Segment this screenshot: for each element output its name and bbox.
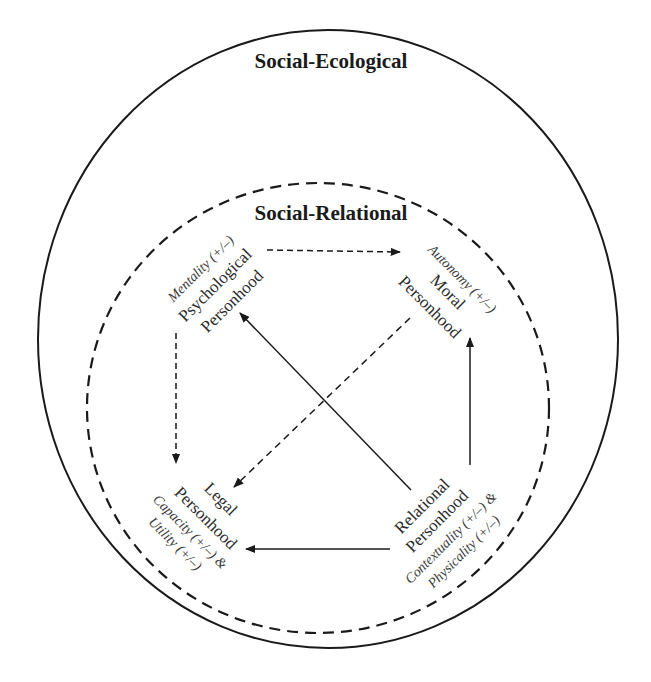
social-ecological-boundary xyxy=(38,30,618,648)
node-legal-personhood: Legal Personhood Capacity (+/–) & Utilit… xyxy=(145,479,242,575)
edge-psychological-to-moral xyxy=(267,250,400,252)
personhood-diagram: Social-Ecological Social-Relational Ment… xyxy=(0,0,651,682)
social-ecological-label: Social-Ecological xyxy=(255,49,408,73)
edge-relational-to-psychological xyxy=(240,313,411,490)
social-relational-label: Social-Relational xyxy=(255,201,408,225)
node-moral-personhood: Autonomy (+/–) Moral Personhood xyxy=(395,241,500,343)
node-relational-personhood: Relational Personhood Contextuality (+/–… xyxy=(391,474,504,592)
node-psychological-personhood: Mentality (+/–) Psychological Personhood xyxy=(164,233,267,337)
